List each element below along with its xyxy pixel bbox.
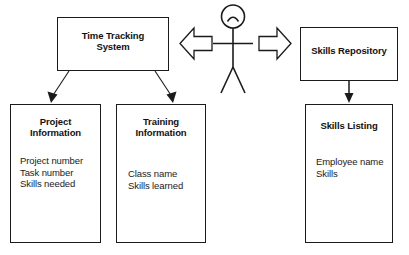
node-skills-repository[interactable]: Skills Repository	[300, 27, 398, 81]
node-project-information-title: Project Information	[11, 105, 100, 138]
title-line-1: Skills Listing	[306, 120, 392, 131]
field-item: Skills	[316, 168, 392, 179]
node-time-tracking-system[interactable]: Time Tracking System	[57, 17, 169, 71]
node-time-tracking-system-title: Time Tracking System	[58, 18, 168, 52]
field-item: Skills learned	[128, 180, 205, 191]
node-skills-listing-fields: Employee name Skills	[306, 131, 392, 179]
field-item: Skills needed	[20, 178, 100, 189]
title-line-1: Training	[117, 116, 205, 127]
node-project-information-fields: Project number Task number Skills needed	[11, 138, 100, 189]
user-stick-figure[interactable]	[208, 4, 258, 92]
node-project-information[interactable]: Project Information Project number Task …	[10, 104, 101, 243]
title-line-1: Skills Repository	[301, 45, 397, 56]
field-item: Class name	[128, 168, 205, 179]
connector-skills-repository-to-skills-listing	[345, 81, 354, 103]
connector-time-tracking-to-training-information	[155, 71, 177, 103]
title-line-2: Information	[11, 127, 100, 138]
diagram-canvas: Time Tracking System Project Information…	[0, 0, 409, 255]
field-item: Task number	[20, 167, 100, 178]
title-line-2: Information	[117, 127, 205, 138]
title-line-1: Time Tracking	[58, 30, 168, 41]
node-training-information-title: Training Information	[117, 105, 205, 138]
field-item: Project number	[20, 155, 100, 166]
node-skills-listing[interactable]: Skills Listing Employee name Skills	[305, 104, 393, 243]
connector-time-tracking-to-project-information	[48, 71, 70, 103]
node-skills-listing-title: Skills Listing	[306, 105, 392, 131]
block-arrow-left[interactable]	[176, 26, 214, 60]
node-training-information-fields: Class name Skills learned	[117, 138, 205, 191]
field-item: Employee name	[316, 156, 392, 167]
block-arrow-right[interactable]	[256, 26, 294, 60]
node-skills-repository-title: Skills Repository	[301, 28, 397, 56]
title-line-2: System	[58, 41, 168, 52]
node-training-information[interactable]: Training Information Class name Skills l…	[116, 104, 206, 243]
title-line-1: Project	[11, 116, 100, 127]
